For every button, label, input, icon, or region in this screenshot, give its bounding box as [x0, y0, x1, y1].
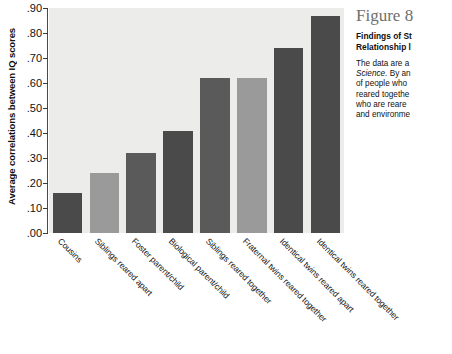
x-axis-tick-labels: CousinsSiblings reared apartFoster paren… [49, 236, 452, 354]
y-tick-label: .90 [18, 3, 42, 13]
y-tick-mark [43, 83, 48, 84]
y-tick-label: .60 [18, 78, 42, 88]
y-tick-label: .80 [18, 28, 42, 38]
y-tick-label: .20 [18, 178, 42, 188]
figure-body-line: reared togethe [356, 90, 452, 100]
bar [237, 78, 267, 233]
figure-body-text: The data are aScience. By anof people wh… [356, 59, 452, 120]
y-tick-mark [43, 133, 48, 134]
y-tick-mark [43, 33, 48, 34]
y-axis-title-text: Average correlations between IQ scores [6, 28, 17, 205]
figure: Average correlations between IQ scores .… [0, 0, 452, 354]
bar [274, 48, 304, 233]
bar [163, 131, 193, 234]
x-tick-label: Identical twins reared apart [278, 236, 356, 314]
x-tick-label: Biological parent/child [167, 236, 232, 301]
y-tick-label: .00 [18, 228, 42, 238]
y-tick-mark [43, 233, 48, 234]
figure-body-line: and environme [356, 110, 452, 120]
figure-heading: Findings of St Relationship l [356, 31, 452, 52]
y-tick-mark [43, 58, 48, 59]
y-tick-label: .70 [18, 53, 42, 63]
y-tick-label: .40 [18, 128, 42, 138]
y-tick-label: .10 [18, 203, 42, 213]
x-tick-label: Siblings reared together [204, 236, 274, 306]
y-tick-mark [43, 208, 48, 209]
y-tick-label: .30 [18, 153, 42, 163]
x-tick-label: Cousins [56, 236, 85, 265]
figure-body-line: Science. By an [356, 69, 452, 79]
y-tick-mark [43, 8, 48, 9]
y-tick-mark [43, 158, 48, 159]
bar [53, 193, 83, 233]
bar [311, 16, 341, 234]
figure-caption-panel: Figure 8 Findings of St Relationship l T… [356, 6, 452, 126]
bar [126, 153, 156, 233]
figure-body-line: who are reare [356, 100, 452, 110]
bar [200, 78, 230, 233]
figure-number: Figure 8 [356, 6, 452, 25]
y-tick-label: .50 [18, 103, 42, 113]
bar [90, 173, 120, 233]
figure-heading-line-2: Relationship l [356, 42, 452, 53]
y-axis-tick-labels: .90.80.70.60.50.40.30.20.10.00 [18, 0, 42, 240]
plot-area [49, 8, 344, 233]
figure-body-line: The data are a [356, 59, 452, 69]
figure-heading-line-1: Findings of St [356, 31, 452, 42]
bar-chart: Average correlations between IQ scores .… [0, 0, 352, 354]
y-tick-mark [43, 183, 48, 184]
figure-body-line: of people who [356, 79, 452, 89]
y-tick-mark [43, 108, 48, 109]
